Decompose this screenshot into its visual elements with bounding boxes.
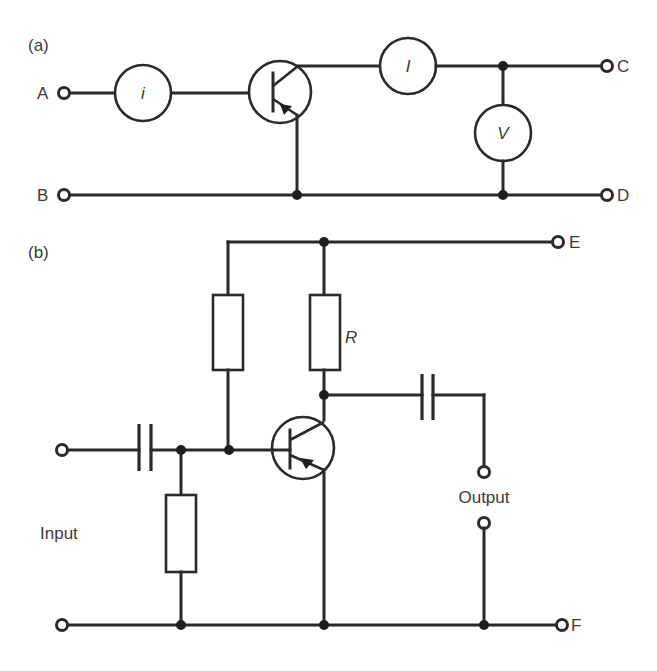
junction-dot [224, 445, 234, 455]
junction-dot [319, 620, 329, 630]
resistor-label-R: R [345, 328, 357, 347]
panel-a-label: (a) [28, 36, 49, 55]
meter-label-I: I [406, 57, 411, 76]
junction-dot [498, 190, 508, 200]
transistor-a [249, 61, 311, 123]
terminal-output-top [479, 467, 490, 478]
panel-b-label: (b) [28, 243, 49, 262]
terminal-e [553, 237, 564, 248]
circuit-figure: (a) i I V [0, 0, 657, 671]
terminal-c [602, 61, 613, 72]
terminal-f-label: F [571, 616, 581, 635]
terminal-input-bottom [57, 620, 68, 631]
ammeter-I: I [380, 38, 436, 94]
junction-dot [498, 61, 508, 71]
terminal-c-label: C [617, 57, 629, 76]
panel-a: (a) i I V [28, 36, 629, 205]
circuit-diagram: (a) i I V [0, 0, 657, 671]
voltmeter-V: V [475, 105, 531, 161]
junction-dot [176, 620, 186, 630]
ammeter-i: i [115, 65, 171, 121]
junction-dot [176, 445, 186, 455]
input-label: Input [40, 524, 78, 543]
junction-dot [319, 390, 329, 400]
junction-dot [292, 190, 302, 200]
resistor-bias-lower [166, 495, 196, 572]
meter-label-V: V [497, 124, 510, 143]
terminal-input-top [57, 445, 68, 456]
junction-dot [319, 237, 329, 247]
terminal-b-label: B [37, 186, 48, 205]
terminal-d-label: D [617, 186, 629, 205]
output-label: Output [458, 488, 509, 507]
resistor-bias-upper [213, 295, 243, 370]
junction-dot [479, 620, 489, 630]
terminal-a [59, 88, 70, 99]
terminal-d [602, 190, 613, 201]
capacitor-input [139, 424, 151, 471]
terminal-f [557, 620, 568, 631]
terminal-e-label: E [569, 233, 580, 252]
resistor-R [310, 295, 340, 370]
terminal-a-label: A [37, 84, 49, 103]
capacitor-output [422, 374, 433, 420]
transistor-envelope [249, 61, 311, 123]
panel-b: (b) R Output [28, 233, 581, 635]
terminal-b [59, 190, 70, 201]
